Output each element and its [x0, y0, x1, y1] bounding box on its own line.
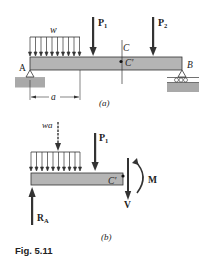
part-b-label: (b) [101, 232, 112, 242]
load-w-label: w [50, 24, 57, 35]
force-p2-arrow-a: P2 [150, 17, 168, 56]
moment-m-label: M [148, 175, 157, 185]
reaction-ra-arrow: RA [29, 187, 49, 225]
p2-label-a: P2 [158, 17, 167, 29]
point-c-label: C [123, 43, 130, 53]
beam-diagram-figure: w P1 P2 C C' A [0, 0, 205, 265]
point-c-prime-label: C' [125, 58, 134, 68]
p1-label-a: P1 [98, 17, 107, 29]
distributed-load-b [30, 152, 82, 171]
distributed-load-w: w [29, 24, 82, 56]
force-p1-arrow-b: P1 [92, 132, 109, 171]
shear-force-v-arrow: V [124, 158, 131, 210]
point-c-prime-dot-b [121, 174, 124, 177]
p1-label-b: P1 [99, 132, 108, 144]
beam-a [30, 57, 182, 70]
point-c-prime-dot [119, 60, 122, 63]
dimension-a-label: a [51, 92, 56, 102]
bending-moment-m-arrow: M [132, 158, 157, 193]
support-a-label: A [19, 63, 26, 73]
part-b: wa C' [29, 120, 158, 242]
part-a-label: (a) [99, 98, 110, 108]
part-a: w P1 P2 C C' A [15, 17, 199, 108]
force-p1-arrow-a: P1 [90, 17, 108, 56]
shear-v-label: V [124, 200, 131, 210]
figure-caption: Fig. 5.11 [15, 245, 53, 256]
support-b-label: B [187, 60, 193, 70]
point-c-prime-label-b: C' [108, 176, 117, 186]
resultant-wa-label: wa [42, 120, 53, 130]
resultant-wa-arrow [55, 122, 61, 151]
reaction-ra-label: RA [37, 213, 49, 224]
roller-support-b [167, 70, 199, 92]
